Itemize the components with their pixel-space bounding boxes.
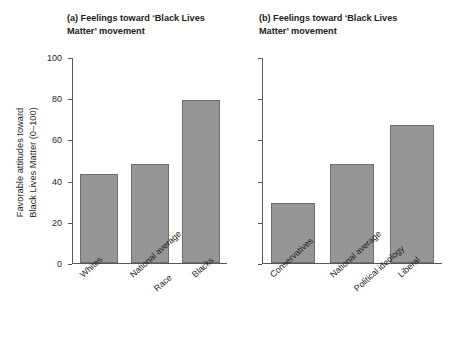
panel-b-bars (263, 58, 442, 263)
figure-canvas: (a) Feelings toward ‘Black Lives Matter’… (0, 0, 450, 359)
panel-a-tick-label-40: 40 (52, 177, 62, 187)
panel-b-tick-0 (258, 264, 262, 265)
panel-a-tick-80: 80 (68, 99, 72, 100)
panel-b-title-text: Feelings toward ‘Black Lives Matter’ mov… (259, 13, 397, 36)
bar-liberal (390, 125, 434, 263)
panel-b-title: (b) Feelings toward ‘Black Lives Matter’… (259, 12, 429, 37)
x-axis-group-label-a: Race (152, 273, 174, 294)
panel-b-tick-60 (258, 140, 262, 141)
panel-a-tick-100: 100 (68, 58, 72, 59)
panel-a-bars (73, 58, 227, 263)
panel-a-tick-40: 40 (68, 182, 72, 183)
panel-a-tick-label-20: 20 (52, 218, 62, 228)
y-axis-label: Favorable attitudes toward Black Lives M… (14, 60, 44, 265)
panel-a-tick-60: 60 (68, 140, 72, 141)
panel-b-tick-40 (258, 182, 262, 183)
panel-a-tick-label-80: 80 (52, 94, 62, 104)
panel-b-plot-area (262, 58, 442, 264)
bar-whites (80, 174, 118, 263)
panel-a-tick-0: 0 (68, 264, 72, 265)
panel-a-tag: (a) (67, 13, 78, 23)
panel-a-title: (a) Feelings toward ‘Black Lives Matter’… (67, 12, 225, 37)
panel-a-tick-20: 20 (68, 223, 72, 224)
panel-b-tick-20 (258, 223, 262, 224)
panel-a-plot-area: 020406080100 (72, 58, 227, 264)
panel-a-tick-label-100: 100 (47, 53, 62, 63)
panel-b-tag: (b) (259, 13, 271, 23)
panel-a-tick-label-0: 0 (57, 259, 62, 269)
panel-a-title-text: Feelings toward ‘Black Lives Matter’ mov… (67, 13, 205, 36)
panel-b-tick-100 (258, 58, 262, 59)
bar-blacks (182, 100, 220, 263)
y-axis-label-text: Favorable attitudes toward Black Lives M… (14, 60, 39, 265)
panel-a-tick-label-60: 60 (52, 135, 62, 145)
panel-b-tick-80 (258, 99, 262, 100)
